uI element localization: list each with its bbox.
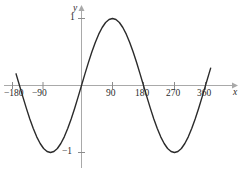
x-tick-label-minus90: −90: [32, 89, 47, 99]
y-axis-arrow-icon: [79, 5, 85, 11]
x-tick-label-90: 90: [106, 89, 116, 99]
y-axis-title: y: [73, 4, 77, 14]
y-tick-label-1: 1: [70, 13, 75, 23]
y-tick-label-minus1: −1: [62, 147, 72, 157]
x-tick-label-180: 180: [135, 89, 149, 99]
plot-area: [0, 0, 242, 174]
x-tick-label-360: 360: [197, 89, 211, 99]
sine-curve-chart: −180 −90 90 180 270 360 1 −1 y x: [0, 0, 242, 174]
x-tick-label-minus180: −180: [4, 89, 24, 99]
x-tick-label-270: 270: [166, 89, 180, 99]
x-axis-title: x: [233, 88, 237, 98]
